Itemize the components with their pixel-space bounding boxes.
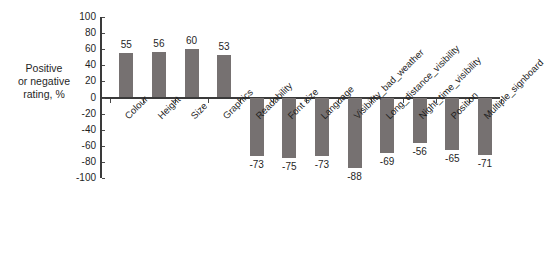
y-axis-tick-label: 20 (66, 76, 96, 86)
y-axis-tick-label: -60 (66, 141, 96, 151)
bar-value-label: -65 (435, 153, 469, 164)
y-axis-tick-labels: 100806040200-20-40-60-80-100 (62, 17, 96, 178)
y-axis-tick-label: 80 (66, 28, 96, 38)
y-axis-tick-mark (102, 65, 105, 66)
bar-value-label: 56 (142, 38, 176, 49)
y-axis-tick-mark (102, 130, 105, 131)
bar-value-label: -75 (272, 161, 306, 172)
bar-value-label: -73 (240, 159, 274, 170)
y-axis-tick-label: 0 (66, 93, 96, 103)
y-axis-tick-mark (102, 49, 105, 50)
bar-value-label: -56 (403, 146, 437, 157)
y-axis-tick-label: -80 (66, 157, 96, 167)
bar-value-label: -73 (305, 159, 339, 170)
y-axis-tick-mark (102, 17, 105, 18)
bar-value-label: 60 (175, 35, 209, 46)
y-axis-tick-label: 100 (66, 12, 96, 22)
y-axis-tick-mark (102, 98, 105, 99)
y-axis-tick-label: -20 (66, 109, 96, 119)
y-axis-tick-mark (102, 81, 105, 82)
y-axis-tick-label: 40 (66, 60, 96, 70)
bar-value-label: -71 (468, 158, 502, 169)
y-axis-tick-mark (102, 114, 105, 115)
y-axis-tick-label: -100 (66, 173, 96, 183)
y-axis-tick-mark (102, 178, 105, 179)
y-axis-tick-label: 60 (66, 44, 96, 54)
y-axis-tick-mark (102, 33, 105, 34)
bar-value-label: -69 (370, 156, 404, 167)
bar-value-label: 53 (207, 41, 241, 52)
bar (185, 49, 199, 97)
y-axis-tick-label: -40 (66, 125, 96, 135)
bar-value-label: -88 (338, 171, 372, 182)
y-axis-tick-mark (102, 162, 105, 163)
bar-value-label: 55 (109, 39, 143, 50)
x-axis-tick-mark (208, 99, 209, 103)
y-axis-tick-mark (102, 146, 105, 147)
bar (119, 53, 133, 97)
bar (217, 55, 231, 98)
x-axis-tick-mark (110, 99, 111, 103)
bar (152, 52, 166, 97)
